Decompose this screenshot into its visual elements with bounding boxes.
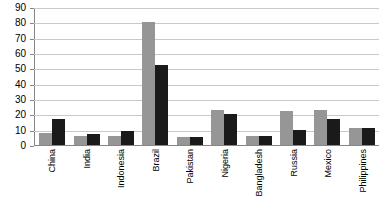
- bar-group: [345, 8, 379, 145]
- x-axis-label-cell: China: [35, 147, 70, 209]
- x-axis-tick-label: Bangladesh: [255, 149, 264, 197]
- bar: [155, 65, 168, 145]
- x-axis-tick-label: China: [48, 149, 57, 173]
- bar-group: [207, 8, 241, 145]
- y-axis-tick-label: 20: [0, 110, 26, 120]
- y-axis-tick-mark: [30, 8, 34, 9]
- y-axis-tick-mark: [30, 146, 34, 147]
- y-axis-tick-mark: [30, 131, 34, 132]
- bar-group: [138, 8, 172, 145]
- y-axis-tick-label: 30: [0, 95, 26, 105]
- y-axis-tick-mark: [30, 39, 34, 40]
- y-axis-tick-mark: [30, 23, 34, 24]
- x-axis-tick-label: Indonesia: [117, 149, 126, 188]
- bar-group: [35, 8, 69, 145]
- y-axis-tick-label: 60: [0, 49, 26, 59]
- bar: [177, 137, 190, 145]
- x-axis-tick-label: India: [82, 149, 91, 169]
- bars-layer: [35, 8, 379, 145]
- x-axis-label-cell: Nigeria: [208, 147, 243, 209]
- x-axis-tick-label: Nigeria: [220, 149, 229, 178]
- y-axis-tick-mark: [30, 100, 34, 101]
- x-axis-tick-label: Mexico: [324, 149, 333, 178]
- bar: [280, 111, 293, 145]
- y-axis-tick-label: 10: [0, 126, 26, 136]
- x-axis-label-cell: Indonesia: [104, 147, 139, 209]
- bar: [52, 119, 65, 145]
- x-axis-label-cell: Pakistan: [173, 147, 208, 209]
- bar: [74, 136, 87, 145]
- y-axis-tick-label: 50: [0, 64, 26, 74]
- bar: [121, 131, 134, 145]
- bar-group: [104, 8, 138, 145]
- y-axis-tick-label: 80: [0, 18, 26, 28]
- x-axis-tick-label: Brazil: [151, 149, 160, 172]
- bar: [108, 136, 121, 145]
- x-axis-labels: ChinaIndiaIndonesiaBrazilPakistanNigeria…: [35, 147, 380, 209]
- plot-frame: 0102030405060708090: [34, 8, 379, 146]
- bar: [314, 110, 327, 145]
- bar: [327, 119, 340, 145]
- x-axis-label-cell: India: [70, 147, 105, 209]
- x-axis-label-cell: Philippines: [346, 147, 381, 209]
- bar: [259, 136, 272, 145]
- y-axis-tick-label: 40: [0, 80, 26, 90]
- x-axis-label-cell: Mexico: [311, 147, 346, 209]
- y-axis-tick-mark: [30, 69, 34, 70]
- x-axis-tick-label: Russia: [289, 149, 298, 177]
- bar: [142, 22, 155, 145]
- y-axis-tick-mark: [30, 54, 34, 55]
- bar: [362, 128, 375, 145]
- bar: [87, 134, 100, 145]
- bar-group: [241, 8, 275, 145]
- y-axis-tick-label: 0: [0, 141, 26, 151]
- bar-group: [69, 8, 103, 145]
- x-axis-tick-label: Philippines: [358, 149, 367, 193]
- x-axis-label-cell: Brazil: [139, 147, 174, 209]
- y-axis-tick-label: 70: [0, 34, 26, 44]
- x-axis-label-cell: Bangladesh: [242, 147, 277, 209]
- bar: [224, 114, 237, 145]
- y-axis-tick-mark: [30, 115, 34, 116]
- bar: [293, 130, 306, 145]
- y-axis-tick-label: 90: [0, 3, 26, 13]
- bar-chart: 0102030405060708090 ChinaIndiaIndonesiaB…: [0, 0, 385, 209]
- bar: [211, 110, 224, 145]
- bar: [246, 136, 259, 145]
- bar-group: [173, 8, 207, 145]
- bar: [190, 137, 203, 145]
- x-axis-label-cell: Russia: [277, 147, 312, 209]
- x-axis-tick-label: Pakistan: [186, 149, 195, 184]
- bar: [349, 128, 362, 145]
- y-axis-tick-mark: [30, 85, 34, 86]
- bar: [39, 133, 52, 145]
- bar-group: [276, 8, 310, 145]
- bar-group: [310, 8, 344, 145]
